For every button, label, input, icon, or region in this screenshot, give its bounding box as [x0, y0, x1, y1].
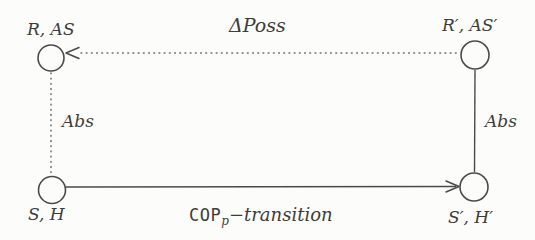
node-circle-bottom-right: [460, 173, 488, 201]
edge-label-abs-left: Abs: [62, 113, 94, 130]
node-label-bottom-right: S′, H′: [448, 209, 493, 226]
arrowhead-left-icon: [66, 48, 79, 59]
edge-label-delta-poss: ΔPoss: [229, 16, 286, 35]
edge-label-cop-transition: COPp−transition: [189, 206, 333, 224]
cop-label-typewriter-part: COP: [189, 205, 221, 225]
diagram-canvas: R, AS R′, AS′ S, H S′, H′ ΔPoss Abs Abs …: [0, 0, 535, 240]
edge-right-solid-line: [475, 70, 476, 172]
node-label-bottom-left: S, H: [28, 206, 65, 223]
node-label-top-right: R′, AS′: [442, 17, 497, 34]
node-label-top-left: R, AS: [27, 21, 75, 38]
node-circle-top-right: [461, 41, 489, 69]
node-circle-top-left: [38, 45, 64, 71]
cop-label-transition-part: −transition: [229, 204, 333, 225]
node-circle-bottom-left: [39, 177, 66, 204]
edge-label-abs-right: Abs: [485, 113, 517, 130]
cop-label-subscript: p: [221, 214, 229, 228]
edge-bottom-solid-line: [66, 187, 456, 188]
